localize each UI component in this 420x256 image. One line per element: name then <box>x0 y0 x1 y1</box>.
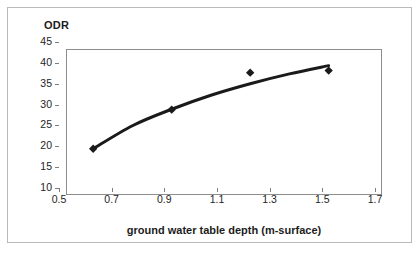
trendline <box>93 66 328 149</box>
data-point-markers <box>89 66 333 152</box>
y-tick-mark <box>55 125 59 126</box>
chart-outer-frame: ODR 1015202530354045 0.50.70.91.11.31.51… <box>7 7 412 243</box>
chart-screenshot: ODR 1015202530354045 0.50.70.91.11.31.51… <box>0 0 420 256</box>
x-tick-label: 0.9 <box>147 193 181 205</box>
x-tick-mark <box>59 188 60 192</box>
x-tick-label: 1.5 <box>305 193 339 205</box>
plot-area <box>66 49 382 195</box>
y-tick-mark <box>55 42 59 43</box>
y-tick-label: 40 <box>30 56 52 68</box>
y-tick-mark <box>55 146 59 147</box>
y-tick-mark <box>55 63 59 64</box>
x-tick-mark <box>112 188 113 192</box>
y-tick-label: 45 <box>30 35 52 47</box>
x-tick-label: 0.5 <box>42 193 76 205</box>
x-axis-title: ground water table depth (m-surface) <box>66 224 382 236</box>
y-tick-label: 20 <box>30 139 52 151</box>
y-tick-label: 30 <box>30 98 52 110</box>
x-tick-mark <box>270 188 271 192</box>
x-tick-mark <box>164 188 165 192</box>
x-tick-label: 0.7 <box>95 193 129 205</box>
x-tick-label: 1.1 <box>200 193 234 205</box>
y-tick-label: 15 <box>30 160 52 172</box>
y-tick-label: 10 <box>30 181 52 193</box>
series-plot <box>67 50 381 194</box>
y-tick-mark <box>55 105 59 106</box>
y-tick-label: 25 <box>30 118 52 130</box>
data-point-marker <box>246 68 254 76</box>
x-tick-mark <box>375 188 376 192</box>
x-tick-mark <box>322 188 323 192</box>
x-tick-mark <box>217 188 218 192</box>
y-tick-mark <box>55 167 59 168</box>
y-axis-title: ODR <box>44 19 69 31</box>
x-tick-label: 1.3 <box>253 193 287 205</box>
y-tick-mark <box>55 84 59 85</box>
y-tick-label: 35 <box>30 77 52 89</box>
x-tick-label: 1.7 <box>358 193 392 205</box>
